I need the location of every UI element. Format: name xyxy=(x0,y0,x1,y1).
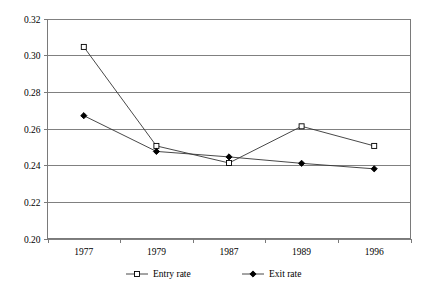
data-point-1977 xyxy=(81,44,86,49)
line-chart: 0.320.300.280.260.240.220.20 19771979198… xyxy=(0,0,428,293)
x-axis-tick-label: 1987 xyxy=(220,247,239,257)
data-point-1996 xyxy=(372,143,377,148)
y-axis-tick-label: 0.30 xyxy=(24,51,41,61)
x-axis-tick-label: 1996 xyxy=(365,247,384,257)
y-axis-tick-label: 0.24 xyxy=(24,161,41,171)
legend-label: Exit rate xyxy=(269,269,301,279)
x-axis-tick-label: 1979 xyxy=(147,247,166,257)
data-point-1989 xyxy=(299,124,304,129)
y-axis-tick-label: 0.28 xyxy=(24,88,41,98)
y-axis-tick-label: 0.26 xyxy=(24,125,41,135)
data-point-1979 xyxy=(154,143,159,148)
legend-marker-open-square xyxy=(135,272,140,277)
x-axis-tick-label: 1977 xyxy=(74,247,93,257)
y-axis-tick-label: 0.20 xyxy=(24,235,41,245)
y-axis-tick-label: 0.32 xyxy=(24,15,41,25)
y-axis-tick-label: 0.22 xyxy=(24,198,41,208)
data-point-1987 xyxy=(227,160,232,165)
legend-label: Entry rate xyxy=(153,269,191,279)
chart-canvas: 0.320.300.280.260.240.220.20 19771979198… xyxy=(0,0,428,293)
x-axis-tick-label: 1989 xyxy=(292,247,311,257)
